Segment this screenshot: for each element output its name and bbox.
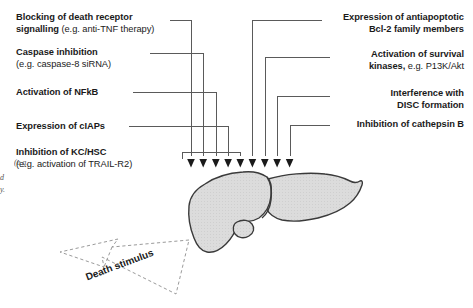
liver-illustration (189, 172, 363, 252)
label-activation-nfkb: Activation of NFkB (16, 87, 98, 99)
label-activation-survival-kinases-line1: Activation of survival (371, 49, 464, 59)
arrowhead-2 (199, 159, 207, 168)
arrowhead-5 (237, 159, 245, 168)
connector-right-2 (265, 58, 330, 157)
label-inhibition-cathepsin-b: Inhibition of cathepsin B (357, 119, 464, 131)
label-caspase-inhibition-note: (e.g. caspase-8 siRNA) (16, 59, 111, 69)
figure-canvas: Blocking of death receptor signalling (e… (0, 0, 473, 308)
liver-left-lobe (189, 172, 272, 252)
label-blocking-death-receptor-line1: Blocking of death receptor (16, 12, 132, 22)
connector-right-1 (252, 21, 322, 157)
label-expression-ciaps: Expression of cIAPs (16, 121, 105, 133)
label-interference-disc-formation: Interference with DISC formation (390, 88, 464, 111)
connector-left-4 (129, 127, 228, 157)
arrowhead-3 (212, 159, 220, 168)
label-interference-disc-formation-line2: DISC formation (397, 100, 464, 110)
label-expression-ciaps-title: Expression of cIAPs (16, 121, 105, 131)
label-inhibition-cathepsin-b-title: Inhibition of cathepsin B (357, 119, 464, 129)
label-expression-antiapoptotic-bcl2-line2: Bcl-2 family members (369, 24, 464, 34)
liver-right-lobe (264, 173, 362, 221)
gutter-fragment-3: y. (0, 184, 8, 195)
label-interference-disc-formation-line1: Interference with (390, 88, 464, 98)
arrowhead-6 (249, 159, 257, 168)
label-activation-nfkb-title: Activation of NFkB (16, 87, 98, 97)
connector-right-4 (290, 126, 330, 157)
arrowhead-9 (286, 159, 294, 168)
label-expression-antiapoptotic-bcl2: Expression of antiapoptotic Bcl-2 family… (343, 12, 464, 35)
label-blocking-death-receptor: Blocking of death receptor signalling (e… (16, 12, 154, 35)
left-connector-lines (129, 21, 240, 159)
label-blocking-death-receptor-line2: signalling (16, 24, 59, 34)
right-connector-lines (252, 21, 330, 157)
arrowhead-4 (224, 159, 232, 168)
gutter-fragment-1: (e.g. (14, 157, 38, 168)
label-expression-antiapoptotic-bcl2-line1: Expression of antiapoptotic (343, 12, 464, 22)
connector-left-2 (150, 54, 203, 157)
label-blocking-death-receptor-note: (e.g. anti-TNF therapy) (61, 24, 154, 34)
gutter-fragment-2: d (0, 172, 8, 183)
connector-left-1 (170, 21, 191, 157)
label-activation-survival-kinases: Activation of survival kinases, e.g. P13… (369, 49, 464, 72)
label-activation-survival-kinases-note: e.g. P13K/Akt (405, 61, 464, 71)
label-inhibition-kc-hsc-title: Inhibition of KC/HSC (16, 147, 106, 157)
label-caspase-inhibition: Caspase inhibition (e.g. caspase-8 siRNA… (16, 47, 111, 70)
stimulus-arrowheads (187, 159, 293, 168)
arrowhead-7 (261, 159, 269, 168)
gallbladder (233, 220, 253, 237)
connector-left-3 (133, 93, 216, 157)
label-caspase-inhibition-title: Caspase inhibition (16, 47, 98, 57)
connector-right-3 (277, 97, 330, 157)
arrowhead-1 (187, 159, 195, 168)
arrowhead-8 (273, 159, 281, 168)
label-activation-survival-kinases-line2: kinases, (369, 61, 405, 71)
